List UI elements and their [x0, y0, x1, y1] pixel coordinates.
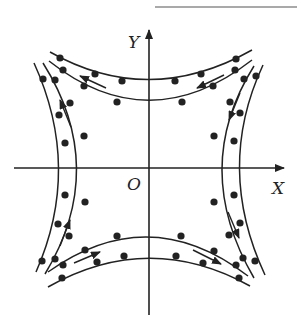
curve-top-outer	[50, 50, 252, 80]
curve-bottom-inner	[48, 237, 248, 276]
origin-label: O	[127, 174, 141, 194]
x-axis-label: X	[270, 178, 285, 198]
curve-right-outer	[239, 65, 265, 275]
y-axis-label: Y	[128, 32, 141, 52]
field-diagram: Y X O	[0, 0, 297, 319]
